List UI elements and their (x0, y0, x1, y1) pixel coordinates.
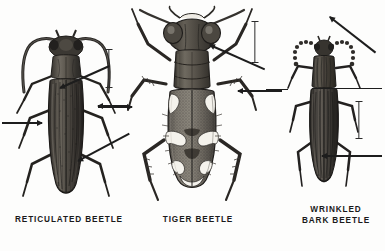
scale-bar-right (354, 101, 363, 139)
leader-arrow-reticulated-left (2, 122, 42, 124)
scale-bar-stem (108, 49, 109, 88)
wrinkled-bark-beetle-drawing (286, 26, 362, 198)
scale-bar-center (250, 21, 259, 63)
caption-wrinkled-bark-beetle: WRINKLED BARK BEETLE (288, 205, 384, 226)
caption-reticulated-beetle: RETICULATED BEETLE (8, 215, 130, 226)
leader-line-wrinkled-pronotum (312, 88, 382, 89)
leader-arrow-tiger-left (98, 106, 132, 108)
leader-line-wrinkled-left (266, 89, 288, 90)
figure-reticulated-beetle (14, 14, 118, 206)
scale-bar-serif-bottom (105, 87, 112, 88)
scale-bar-stem (254, 21, 255, 63)
scale-bar-left (104, 49, 113, 88)
figure-tiger-beetle (128, 4, 256, 209)
reticulated-beetle-drawing (14, 14, 118, 206)
scale-bar-serif-bottom (355, 138, 362, 139)
figure-wrinkled-bark-beetle (286, 26, 362, 198)
tiger-beetle-drawing (128, 4, 256, 209)
caption-tiger-beetle: TIGER BEETLE (148, 215, 248, 226)
scale-bar-stem (358, 101, 359, 139)
illustration-plate: RETICULATED BEETLE TIGER BEETLE WRINKLED… (0, 0, 385, 251)
leader-arrow-wrinkled-elytra (322, 155, 382, 157)
